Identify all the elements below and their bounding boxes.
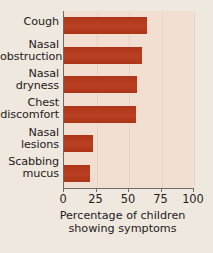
y-axis-label-line: Cough xyxy=(24,15,59,28)
y-axis-label-line: discomfort xyxy=(0,108,59,121)
bar-cough xyxy=(64,17,147,34)
y-axis-label-scabbing-mucus: Scabbing mucus xyxy=(0,156,59,181)
x-axis-title-line-2: showing symptoms xyxy=(40,222,205,235)
y-axis-category-labels: Cough Nasal obstruction Nasal dryness Ch… xyxy=(0,11,59,188)
y-axis-label-cough: Cough xyxy=(0,16,59,28)
x-axis-title-line-1: Percentage of children xyxy=(60,209,186,222)
x-axis-tick-label: 75 xyxy=(153,193,168,206)
bar-scabbing-mucus xyxy=(64,165,90,182)
bar-row xyxy=(64,41,193,71)
y-axis-label-chest-discomfort: Chest discomfort xyxy=(0,97,59,122)
plot-area xyxy=(63,11,193,188)
x-axis-tick-label: 25 xyxy=(88,193,103,206)
y-axis-label-nasal-obstruction: Nasal obstruction xyxy=(0,39,59,64)
bar-row xyxy=(64,159,193,189)
figure-panel: Cough Nasal obstruction Nasal dryness Ch… xyxy=(0,0,213,253)
y-axis-label-line: Nasal xyxy=(28,67,59,80)
bar-row xyxy=(64,100,193,130)
x-axis-tick-label: 0 xyxy=(59,193,66,206)
bar-nasal-obstruction xyxy=(64,47,142,64)
bar-chest-discomfort xyxy=(64,106,136,123)
gridline xyxy=(194,11,195,188)
x-axis-title: Percentage of children showing symptoms xyxy=(40,209,205,235)
bar-nasal-lesions xyxy=(64,135,93,152)
y-axis-label-nasal-lesions: Nasal lesions xyxy=(0,127,59,152)
x-axis-tick-label: 100 xyxy=(182,193,204,206)
y-axis-label-line: Scabbing xyxy=(8,155,59,168)
y-axis-label-line: Nasal xyxy=(28,126,59,139)
y-axis-label-line: dryness xyxy=(16,79,59,92)
y-axis-label-line: obstruction xyxy=(0,50,62,63)
bar-row xyxy=(64,11,193,41)
bar-row xyxy=(64,70,193,100)
y-axis-label-line: lesions xyxy=(21,138,59,151)
y-axis-label-line: Nasal xyxy=(28,38,59,51)
bar-nasal-dryness xyxy=(64,76,137,93)
x-axis-tick-label: 50 xyxy=(121,193,136,206)
bar-series xyxy=(64,11,193,188)
bar-row xyxy=(64,129,193,159)
y-axis-label-line: Chest xyxy=(27,96,59,109)
y-axis-label-line: mucus xyxy=(22,167,59,180)
y-axis-label-nasal-dryness: Nasal dryness xyxy=(0,68,59,93)
